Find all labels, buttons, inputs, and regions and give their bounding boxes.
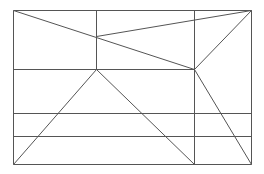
line-diagram — [0, 0, 264, 174]
line-diag-b-to-br — [195, 70, 252, 165]
line-diag-a-to-tr — [97, 11, 252, 37]
line-diag-peak-to-bl — [14, 70, 97, 165]
line-diag-b-to-tr — [195, 11, 252, 70]
line-diag-peak-to-bm — [97, 70, 195, 165]
line-diag-tl-to-b — [14, 11, 195, 70]
